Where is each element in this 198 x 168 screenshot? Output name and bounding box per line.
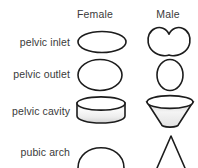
column-header-male: Male	[138, 8, 198, 20]
row-label-pelvic-cavity: pelvic cavity	[0, 105, 70, 117]
shape-female-pubic-arch	[76, 133, 126, 168]
pelvis-comparison-figure: Female Male pelvic inlet pelvic outlet p…	[0, 0, 198, 168]
row-label-pubic-arch: pubic arch	[0, 146, 70, 158]
column-header-female: Female	[60, 8, 130, 20]
row-label-pelvic-inlet: pelvic inlet	[0, 36, 70, 48]
shape-male-pelvic-cavity	[144, 94, 196, 128]
shape-female-pelvic-inlet	[76, 28, 128, 56]
row-label-pelvic-outlet: pelvic outlet	[0, 68, 70, 80]
shape-male-pubic-arch	[154, 133, 188, 168]
shape-male-pelvic-outlet	[154, 58, 186, 92]
shape-male-pelvic-inlet	[146, 25, 192, 58]
shape-female-pelvic-outlet	[76, 58, 124, 92]
shape-female-pelvic-cavity	[74, 96, 128, 126]
